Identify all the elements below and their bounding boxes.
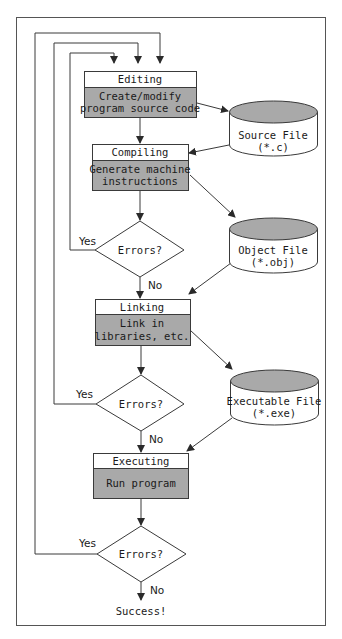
decision-1-yes: Yes [78, 235, 96, 247]
step-editing: Editing Create/modify program source cod… [80, 72, 200, 118]
decision-link-errors: Errors? Yes No [75, 375, 184, 445]
file-object-name: Object File [238, 244, 308, 256]
file-executable-name: Executable File [227, 395, 322, 407]
step-compiling-body-2: instructions [102, 175, 178, 187]
arrow-edit-to-source [197, 103, 228, 111]
arrow-compile-to-object [190, 175, 235, 217]
arrow-object-to-link [189, 263, 231, 294]
step-linking-body-1: Link in [120, 317, 164, 329]
file-source: Source File (*.c) [230, 101, 318, 156]
file-source-ext: (*.c) [257, 141, 289, 153]
end-success-label: Success! [116, 605, 167, 617]
decision-1-label: Errors? [118, 244, 162, 256]
decision-3-no: No [150, 584, 164, 596]
step-executing-body-1: Run program [106, 477, 176, 489]
arrow-link-to-executable [190, 330, 232, 369]
step-executing: Executing Run program [94, 454, 189, 499]
file-object: Object File (*.obj) [230, 218, 318, 273]
decision-3-yes: Yes [78, 537, 96, 549]
step-compiling-header: Compiling [112, 146, 169, 158]
step-editing-body-2: program source code [80, 102, 200, 114]
arrow-executable-to-execute [187, 418, 232, 451]
step-editing-header: Editing [118, 73, 162, 85]
decision-2-label: Errors? [119, 398, 163, 410]
file-executable: Executable File (*.exe) [227, 370, 322, 425]
arrow-source-to-compile [189, 145, 229, 153]
step-executing-header: Executing [113, 455, 170, 467]
decision-2-yes: Yes [75, 388, 93, 400]
step-linking-header: Linking [120, 301, 164, 313]
file-source-name: Source File [238, 129, 308, 141]
step-editing-body-1: Create/modify [99, 90, 181, 102]
decision-execute-errors: Errors? Yes No [78, 526, 186, 596]
program-development-flowchart: Editing Create/modify program source cod… [0, 0, 342, 639]
step-compiling-body-1: Generate machine [89, 163, 190, 175]
decision-2-no: No [149, 433, 163, 445]
step-linking: Linking Link in libraries, etc. [95, 300, 191, 346]
decision-compile-errors: Errors? Yes No [78, 221, 184, 291]
decision-1-no: No [148, 279, 162, 291]
decision-3-label: Errors? [119, 548, 163, 560]
step-linking-body-2: libraries, etc. [95, 330, 190, 342]
step-compiling: Compiling Generate machine instructions [89, 145, 190, 191]
file-object-ext: (*.obj) [251, 256, 295, 268]
file-executable-ext: (*.exe) [252, 407, 296, 419]
